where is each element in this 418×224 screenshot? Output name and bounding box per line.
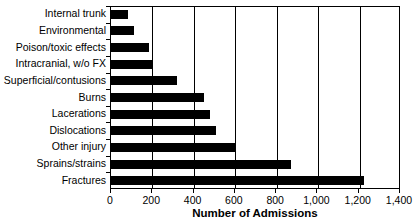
y-axis-tick bbox=[106, 39, 110, 40]
y-axis-tick bbox=[106, 172, 110, 173]
x-axis-tick-label: 200 bbox=[143, 194, 161, 206]
y-axis-tick bbox=[106, 89, 110, 90]
category-label: Lacerations bbox=[0, 108, 106, 119]
bar bbox=[111, 76, 177, 85]
x-axis-tick bbox=[399, 189, 400, 193]
y-axis-tick bbox=[106, 139, 110, 140]
category-label: Dislocations bbox=[0, 125, 106, 136]
category-label: Other injury bbox=[0, 141, 106, 152]
category-label: Intracranial, w/o FX bbox=[0, 58, 106, 69]
x-axis-tick-label: 1,000 bbox=[303, 194, 329, 206]
x-axis-tick bbox=[193, 189, 194, 193]
bar bbox=[111, 126, 216, 135]
category-label: Poison/toxic effects bbox=[0, 42, 106, 53]
bar bbox=[111, 43, 149, 52]
y-axis-tick bbox=[106, 156, 110, 157]
x-axis-tick bbox=[275, 189, 276, 193]
y-axis-tick bbox=[106, 56, 110, 57]
bars-group bbox=[111, 6, 400, 189]
x-axis-tick bbox=[358, 189, 359, 193]
x-axis-title: Number of Admissions bbox=[110, 207, 400, 219]
x-axis-tick bbox=[151, 189, 152, 193]
bar-chart: Internal trunkEnvironmentalPoison/toxic … bbox=[0, 0, 418, 224]
category-axis: Internal trunkEnvironmentalPoison/toxic … bbox=[0, 6, 106, 189]
y-axis-tick bbox=[106, 73, 110, 74]
bar bbox=[111, 60, 152, 69]
bar bbox=[111, 93, 204, 102]
bar bbox=[111, 10, 128, 19]
x-axis-tick-label: 800 bbox=[266, 194, 284, 206]
category-label: Internal trunk bbox=[0, 8, 106, 19]
category-label: Superficial/contusions bbox=[0, 75, 106, 86]
y-axis-tick bbox=[106, 122, 110, 123]
category-label: Burns bbox=[0, 92, 106, 103]
x-axis-tick-label: 1,200 bbox=[345, 194, 371, 206]
bar bbox=[111, 110, 210, 119]
x-axis-tick-label: 0 bbox=[107, 194, 113, 206]
y-axis-tick bbox=[106, 23, 110, 24]
x-axis-tick bbox=[234, 189, 235, 193]
x-axis-tick-label: 400 bbox=[184, 194, 202, 206]
bar bbox=[111, 26, 134, 35]
x-axis-tick bbox=[110, 189, 111, 193]
x-axis-tick-label: 600 bbox=[225, 194, 243, 206]
category-label: Sprains/strains bbox=[0, 158, 106, 169]
category-label: Environmental bbox=[0, 25, 106, 36]
bar bbox=[111, 176, 364, 185]
bar bbox=[111, 143, 235, 152]
x-axis-tick bbox=[316, 189, 317, 193]
bar bbox=[111, 160, 291, 169]
y-axis-tick bbox=[106, 6, 110, 7]
y-axis-tick bbox=[106, 106, 110, 107]
category-label: Fractures bbox=[0, 175, 106, 186]
x-axis-tick-label: 1,400 bbox=[386, 194, 412, 206]
